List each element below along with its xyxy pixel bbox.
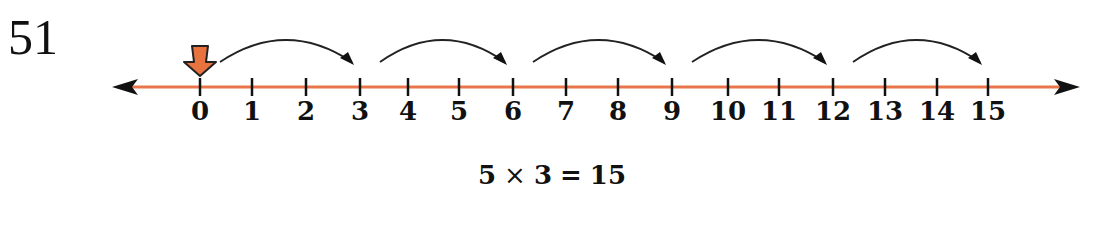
equation: 5×3=15 bbox=[0, 160, 1094, 190]
jump-arc bbox=[853, 40, 980, 62]
tick-label: 10 bbox=[710, 98, 746, 124]
tick-label: 1 bbox=[243, 98, 261, 124]
jump-arc bbox=[220, 40, 352, 62]
tick-label: 15 bbox=[970, 98, 1006, 124]
equation-equals: = bbox=[560, 160, 582, 190]
equation-result: 15 bbox=[590, 160, 626, 190]
tick-label: 5 bbox=[450, 98, 468, 124]
tick-label: 8 bbox=[609, 98, 627, 124]
tick-label: 6 bbox=[504, 98, 522, 124]
equation-left: 5 bbox=[478, 160, 496, 190]
tick-label: 2 bbox=[297, 98, 315, 124]
tick-label: 14 bbox=[919, 98, 955, 124]
equation-operator: × bbox=[504, 160, 526, 190]
arrowhead-icon bbox=[813, 52, 827, 65]
jump-arc bbox=[380, 40, 505, 62]
tick-label: 13 bbox=[867, 98, 903, 124]
tick-label: 11 bbox=[761, 98, 797, 124]
jump-arcs bbox=[220, 40, 982, 65]
jump-arc bbox=[692, 40, 825, 62]
equation-right: 3 bbox=[534, 160, 552, 190]
tick-label: 12 bbox=[815, 98, 851, 124]
tick-label: 0 bbox=[191, 98, 209, 124]
arrowhead-icon bbox=[652, 52, 666, 65]
arrowhead-icon bbox=[340, 52, 354, 65]
tick-label: 7 bbox=[557, 98, 575, 124]
start-marker-down-arrow-icon bbox=[184, 46, 216, 76]
jump-arc bbox=[533, 40, 664, 62]
tick-label: 4 bbox=[399, 98, 417, 124]
tick-label: 9 bbox=[663, 98, 681, 124]
arrowhead-icon bbox=[968, 52, 982, 65]
tick-label: 3 bbox=[351, 98, 369, 124]
arrowhead-icon bbox=[493, 52, 507, 65]
